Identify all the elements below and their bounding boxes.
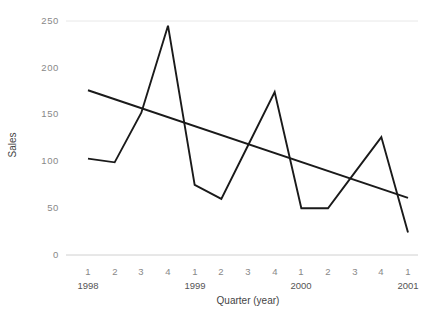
y-axis-tick-labels: 250 200 150 100 50 0 — [41, 15, 59, 260]
chart-canvas: 250 200 150 100 50 0 Sales 1 2 3 4 1 2 3… — [0, 0, 433, 316]
gridlines — [66, 21, 418, 255]
x-tick-label: 4 — [272, 266, 277, 277]
y-tick-label: 0 — [53, 249, 59, 260]
x-tick-label: 1 — [85, 266, 90, 277]
sales-quarter-line-chart: 250 200 150 100 50 0 Sales 1 2 3 4 1 2 3… — [0, 0, 433, 316]
x-year-label: 2001 — [397, 280, 418, 291]
x-tick-label: 2 — [218, 266, 223, 277]
x-year-label: 1998 — [77, 280, 98, 291]
x-tick-label: 2 — [112, 266, 117, 277]
x-tick-label: 3 — [138, 266, 143, 277]
sales-series-line — [88, 26, 408, 233]
x-axis-tick-labels: 1 2 3 4 1 2 3 4 1 2 3 4 1 — [85, 266, 410, 277]
x-axis-title: Quarter (year) — [217, 295, 280, 306]
x-tick-label: 3 — [245, 266, 250, 277]
x-tick-label: 1 — [405, 266, 410, 277]
x-tick-label: 2 — [325, 266, 330, 277]
trend-line — [88, 90, 408, 198]
x-axis-year-labels: 1998 1999 2000 2001 — [77, 280, 418, 291]
y-tick-label: 100 — [41, 155, 59, 166]
x-tick-label: 1 — [298, 266, 303, 277]
x-year-label: 2000 — [290, 280, 311, 291]
x-year-label: 1999 — [184, 280, 205, 291]
y-tick-label: 250 — [41, 15, 59, 26]
x-tick-label: 3 — [352, 266, 357, 277]
x-tick-label: 4 — [165, 266, 170, 277]
y-tick-label: 150 — [41, 108, 59, 119]
x-tick-label: 1 — [192, 266, 197, 277]
y-axis-title: Sales — [7, 132, 18, 157]
y-tick-label: 50 — [47, 202, 59, 213]
y-tick-label: 200 — [41, 62, 59, 73]
x-tick-label: 4 — [378, 266, 383, 277]
